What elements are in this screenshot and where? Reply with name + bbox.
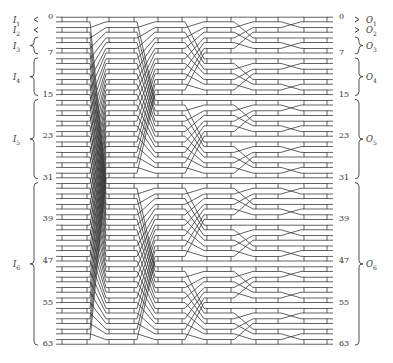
switch-box <box>158 298 182 303</box>
wire <box>182 209 207 236</box>
switch-box <box>158 288 182 293</box>
wire <box>278 63 304 69</box>
switch-box <box>304 163 327 168</box>
switch-box <box>207 142 231 147</box>
switch-box <box>304 204 327 209</box>
input-index-label: 15 <box>43 91 53 99</box>
wire <box>231 313 256 329</box>
switch-box <box>304 246 327 251</box>
input-index-label: 55 <box>43 299 53 307</box>
switch-box <box>207 69 231 74</box>
group-brace <box>30 99 38 178</box>
switch-box <box>207 184 231 189</box>
switch-box <box>256 246 278 251</box>
switch-box <box>304 298 327 303</box>
input-index-label: 23 <box>43 132 53 140</box>
output-index-label: 55 <box>339 299 349 307</box>
switch-box <box>207 111 231 116</box>
switch-box <box>256 121 278 126</box>
switch-box <box>207 90 231 95</box>
switch-box <box>109 225 134 230</box>
switch-box <box>158 59 182 64</box>
switch-box <box>256 48 278 53</box>
switch-box <box>158 319 182 324</box>
switch-box <box>256 163 278 168</box>
wire <box>278 188 304 194</box>
switch-box <box>304 80 327 85</box>
switch-box <box>62 184 87 189</box>
switch-box <box>158 80 182 85</box>
switch-box <box>207 340 231 345</box>
switch-box <box>256 236 278 241</box>
switch-box <box>109 28 134 33</box>
switch-box <box>62 100 87 105</box>
switch-box <box>256 256 278 261</box>
switch-box <box>109 121 134 126</box>
group-brace <box>30 37 38 54</box>
switch-box <box>62 308 87 313</box>
switch-box <box>158 163 182 168</box>
switch-box <box>158 277 182 282</box>
switch-box <box>256 225 278 230</box>
input-index-label: 63 <box>43 340 53 348</box>
switch-box <box>304 28 327 33</box>
output-group-label: O5 <box>366 135 377 146</box>
switch-box <box>109 142 134 147</box>
switch-box <box>304 69 327 74</box>
switch-box <box>109 298 134 303</box>
switch-box <box>109 173 134 178</box>
switch-box <box>256 132 278 137</box>
output-index-label: 23 <box>339 132 349 140</box>
switch-box <box>304 17 327 22</box>
switch-box <box>256 28 278 33</box>
input-index-label: 31 <box>43 174 53 182</box>
switch-box <box>158 246 182 251</box>
switch-box <box>158 340 182 345</box>
switch-box <box>158 308 182 313</box>
switch-box <box>109 308 134 313</box>
switch-box <box>62 173 87 178</box>
switch-box <box>62 246 87 251</box>
switch-box <box>62 48 87 53</box>
input-group-label: I4 <box>13 73 20 84</box>
switch-box <box>207 319 231 324</box>
switch-box <box>256 111 278 116</box>
wire <box>278 43 304 49</box>
switch-box <box>304 194 327 199</box>
switch-box <box>256 90 278 95</box>
switch-box <box>109 90 134 95</box>
switch-box <box>109 132 134 137</box>
switch-box <box>256 59 278 64</box>
group-arrow <box>34 17 38 22</box>
switch-box <box>158 152 182 157</box>
switch-box <box>304 329 327 334</box>
switch-box <box>256 17 278 22</box>
wire <box>231 230 256 246</box>
switch-box <box>207 194 231 199</box>
switch-box <box>62 111 87 116</box>
wire <box>278 292 304 298</box>
switch-box <box>109 204 134 209</box>
switch-box <box>207 121 231 126</box>
switch-box <box>207 256 231 261</box>
switch-box <box>62 215 87 220</box>
wire <box>278 84 304 90</box>
switch-box <box>109 246 134 251</box>
switch-box <box>256 152 278 157</box>
switch-box <box>158 100 182 105</box>
switch-box <box>304 215 327 220</box>
switch-box <box>158 121 182 126</box>
switch-box <box>62 288 87 293</box>
wire <box>278 105 304 111</box>
switch-box <box>158 236 182 241</box>
switch-box <box>109 215 134 220</box>
switch-box <box>304 267 327 272</box>
switch-box <box>62 256 87 261</box>
switch-box <box>158 48 182 53</box>
output-group-label: O2 <box>366 26 377 37</box>
switch-box <box>304 236 327 241</box>
switch-box <box>109 329 134 334</box>
inter-stage-wires <box>87 17 304 344</box>
switch-box <box>62 90 87 95</box>
switch-box <box>256 308 278 313</box>
